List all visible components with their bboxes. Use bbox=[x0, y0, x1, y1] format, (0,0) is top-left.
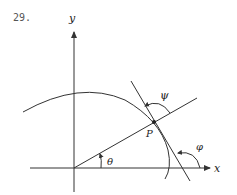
y-axis-label: y bbox=[68, 12, 76, 25]
polar-curve-diagram: 29. y x P θ ψ bbox=[0, 0, 237, 195]
theta-arc bbox=[100, 154, 101, 168]
point-p bbox=[152, 120, 156, 124]
diagram-canvas: y x P θ ψ φ bbox=[0, 0, 237, 195]
problem-number: 29. bbox=[13, 12, 31, 23]
psi-label: ψ bbox=[160, 89, 169, 102]
phi-label: φ bbox=[196, 141, 203, 152]
theta-label: θ bbox=[107, 156, 113, 167]
point-label: P bbox=[145, 128, 153, 139]
radius-ray bbox=[74, 98, 197, 168]
x-axis-label: x bbox=[214, 162, 221, 175]
